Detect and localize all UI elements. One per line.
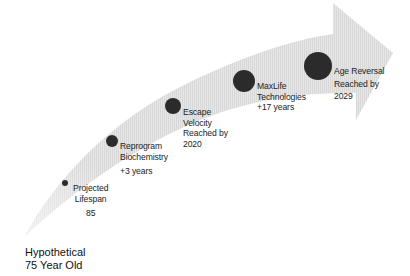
milestone-label-reprogram-biochemistry: Reprogram Biochemistry +3 years [120, 141, 168, 177]
milestone-dot-reprogram-biochemistry [106, 135, 118, 147]
milestone-label-maxlife-technologies: MaxLife Technologies +17 years [257, 81, 306, 113]
milestone-dot-escape-velocity [165, 98, 181, 114]
lifespan-timeline-diagram: Projected Lifespan 85 Reprogram Biochemi… [0, 0, 410, 276]
start-label: Hypothetical 75 Year Old [25, 246, 86, 272]
milestone-label-escape-velocity: Escape Velocity Reached by 2020 [183, 107, 228, 149]
milestone-label-projected-lifespan: Projected Lifespan 85 [73, 183, 108, 219]
milestone-dot-age-reversal [304, 52, 332, 80]
milestone-dot-maxlife-technologies [233, 70, 255, 92]
milestone-label-age-reversal: Age Reversal Reached by 2029 [334, 65, 384, 103]
milestone-dot-projected-lifespan [62, 180, 68, 186]
